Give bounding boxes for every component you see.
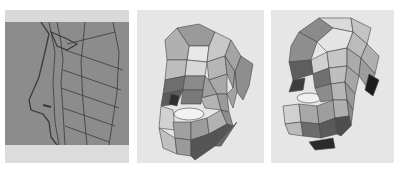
cropped-caption-fragments	[0, 0, 395, 8]
panel-shaded-mesh-three-quarter	[271, 10, 394, 163]
panel-bottom-band	[5, 145, 129, 163]
head-mesh-three-quarter-view	[271, 10, 394, 163]
panel-shaded-mesh-front	[137, 10, 264, 163]
head-mesh-front-view	[137, 10, 264, 163]
panel-wireframe-profile	[5, 10, 129, 163]
wireframe-profile-drawing	[5, 22, 129, 145]
wireframe-viewport	[5, 22, 129, 145]
panel-top-band	[5, 10, 129, 22]
